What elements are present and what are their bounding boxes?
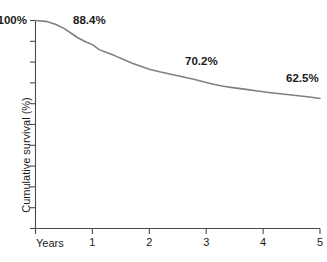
- annotation-label-2: 70.2%: [185, 55, 218, 67]
- x-axis-title: Years: [36, 237, 64, 249]
- y-axis-top-label: 100%: [0, 14, 27, 26]
- x-tick-label-5: 5: [317, 236, 323, 248]
- chart-canvas: 100% 1 2 3 4 5 Years Cumulative survival…: [0, 0, 327, 262]
- x-tick-label-2: 2: [146, 236, 152, 248]
- x-tick-label-4: 4: [260, 236, 266, 248]
- x-tick-label-1: 1: [89, 236, 95, 248]
- annotation-label-1: 88.4%: [73, 14, 106, 26]
- y-axis-title: Cumulative survival (%): [20, 97, 32, 213]
- survival-chart: 100% 1 2 3 4 5 Years Cumulative survival…: [0, 0, 327, 262]
- annotation-label-3: 62.5%: [286, 72, 319, 84]
- x-tick-label-3: 3: [203, 236, 209, 248]
- chart-background: [0, 0, 327, 262]
